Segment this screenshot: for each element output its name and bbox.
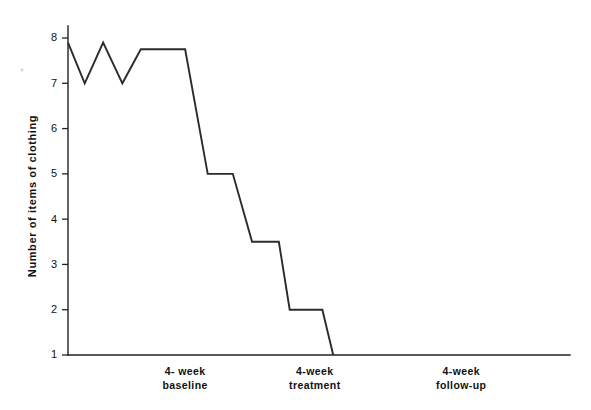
chart-container: 12345678 Number of items of clothing 4- …	[0, 0, 591, 410]
plot-background	[0, 0, 591, 410]
y-tick-label: 2	[51, 303, 57, 315]
y-tick-label: 7	[51, 77, 57, 89]
y-tick-label: 3	[51, 258, 57, 270]
line-chart: 12345678 Number of items of clothing 4- …	[0, 0, 591, 410]
y-tick-label: 8	[51, 31, 57, 43]
y-tick-label: 4	[51, 213, 57, 225]
scan-speck	[21, 69, 24, 72]
y-tick-label: 6	[51, 122, 57, 134]
y-tick-label: 1	[51, 348, 57, 360]
y-tick-label: 5	[51, 167, 57, 179]
y-axis-title: Number of items of clothing	[26, 115, 38, 277]
